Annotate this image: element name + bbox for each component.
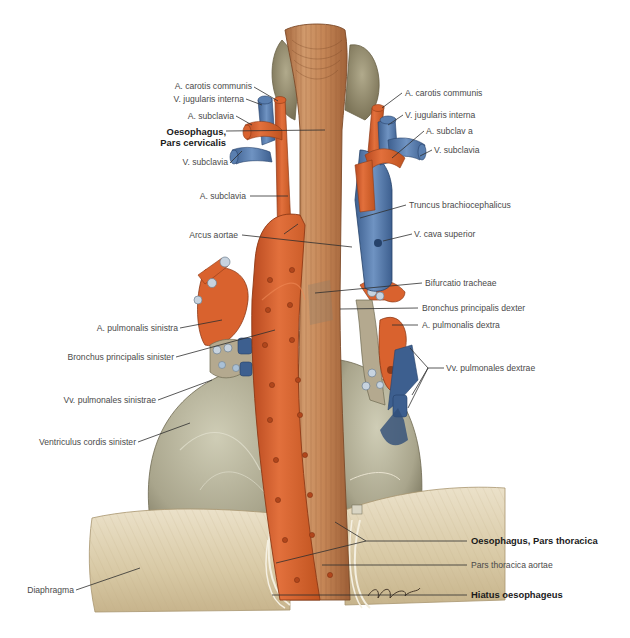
- label-vv-pulmonales-sinistrae: Vv. pulmonales sinistrae: [63, 395, 156, 405]
- label-a-carotis-communis-left: A. carotis communis: [175, 81, 252, 91]
- label-oesophagus-pars-cervicalis-line2: Pars cervicalis: [160, 137, 226, 148]
- label-v-subclavia-right: V. subclavia: [434, 145, 480, 155]
- label-v-subclavia-left: V. subclavia: [182, 157, 228, 167]
- label-arcus-aortae: Arcus aortae: [189, 230, 238, 240]
- label-a-pulmonalis-sinistra: A. pulmonalis sinistra: [97, 323, 178, 333]
- left-lung-hilum: [194, 257, 258, 378]
- leader-bronchus-principalis-dexter: [340, 308, 418, 309]
- label-hiatus-oesophageus: Hiatus oesophageus: [471, 590, 563, 600]
- label-diaphragma: Diaphragma: [27, 585, 74, 595]
- label-bronchus-principalis-sinister: Bronchus principalis sinister: [67, 352, 174, 362]
- label-ventriculus-cordis-sinister: Ventriculus cordis sinister: [39, 437, 136, 447]
- label-pars-thoracica-aortae: Pars thoracica aortae: [471, 560, 553, 570]
- label-a-carotis-communis-right: A. carotis communis: [405, 88, 482, 98]
- leader-a-carotis-communis-right: [382, 93, 402, 108]
- label-a-pulmonalis-dextra: A. pulmonalis dextra: [422, 320, 500, 330]
- label-a-subclavia-right: A. subclav a: [426, 126, 473, 136]
- label-oesophagus-pars-thoracica: Oesophagus, Pars thoracica: [471, 536, 598, 546]
- label-v-cava-superior: V. cava superior: [414, 229, 475, 239]
- label-bifurcatio-tracheae: Bifurcatio tracheae: [425, 278, 497, 288]
- label-a-subclavia-left-lower: A. subclavia: [200, 191, 246, 201]
- label-oesophagus-pars-cervicalis-line1: Oesophagus,: [160, 126, 226, 137]
- label-a-subclavia-left-upper: A. subclavia: [188, 111, 234, 121]
- leader-a-subclavia-left-upper: [236, 116, 252, 125]
- label-v-jugularis-interna-right: V. jugularis interna: [405, 110, 475, 120]
- label-v-jugularis-interna-left: V. jugularis interna: [174, 94, 244, 104]
- label-truncus-brachiocephalicus: Truncus brachiocephalicus: [409, 200, 511, 210]
- label-vv-pulmonales-dextrae: Vv. pulmonales dextrae: [446, 363, 535, 373]
- label-bronchus-principalis-dexter: Bronchus principalis dexter: [422, 303, 525, 313]
- label-oesophagus-pars-cervicalis: Oesophagus, Pars cervicalis: [160, 126, 226, 148]
